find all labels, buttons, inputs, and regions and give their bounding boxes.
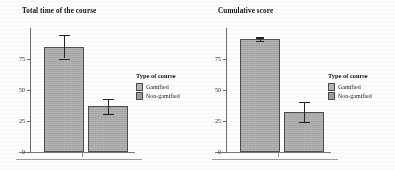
x-axis bbox=[215, 152, 331, 153]
legend-label-non-gamified: Non-gamified bbox=[338, 93, 372, 99]
error-bar-gamified-cap-bottom bbox=[59, 59, 70, 60]
y-axis bbox=[30, 28, 31, 152]
figure-container: Total time of the course 0 25 50 75 bbox=[0, 0, 395, 170]
error-bar-non-gamified-cap-bottom bbox=[103, 114, 114, 115]
chart-panel-cumulative-score: Cumulative score 0 25 50 75 bbox=[197, 0, 394, 170]
y-tick-25: 25 bbox=[223, 121, 226, 122]
error-bar-non-gamified-line bbox=[108, 99, 109, 114]
legend-swatch-icon bbox=[328, 83, 335, 91]
bar-gamified bbox=[240, 39, 280, 152]
y-tick-label-25: 25 bbox=[19, 117, 25, 125]
chart-panel-total-time: Total time of the course 0 25 50 75 bbox=[0, 0, 197, 170]
bar-gamified bbox=[44, 47, 84, 152]
legend-swatch-icon bbox=[136, 83, 143, 91]
error-bar-non-gamified-cap-bottom bbox=[299, 122, 310, 123]
panel-baseline bbox=[212, 159, 338, 160]
y-tick-label-25: 25 bbox=[215, 117, 221, 125]
x-axis bbox=[19, 152, 135, 153]
y-tick-75: 75 bbox=[223, 59, 226, 60]
y-tick-50: 50 bbox=[223, 90, 226, 91]
legend-title: Type of course bbox=[136, 72, 198, 79]
legend-swatch-icon bbox=[136, 92, 143, 100]
y-tick-75: 75 bbox=[27, 59, 30, 60]
error-bar-gamified-cap-top bbox=[59, 35, 70, 36]
plot-area-cumulative-score: 0 25 50 75 bbox=[226, 28, 331, 152]
legend-title: Type of course bbox=[328, 72, 390, 79]
plot-area-total-time: 0 25 50 75 bbox=[30, 28, 135, 152]
chart-title: Cumulative score bbox=[218, 7, 273, 15]
y-tick-0: 0 bbox=[223, 152, 226, 153]
error-bar-non-gamified-line bbox=[304, 102, 305, 122]
y-tick-25: 25 bbox=[27, 121, 30, 122]
y-tick-label-75: 75 bbox=[19, 55, 25, 63]
legend-swatch-icon bbox=[328, 92, 335, 100]
legend-item-gamified[interactable]: Gamified bbox=[136, 82, 198, 91]
x-axis-center-tick bbox=[82, 153, 83, 157]
error-bar-gamified-cap-top bbox=[256, 37, 264, 39]
error-bar-gamified-line bbox=[64, 35, 65, 59]
y-tick-0: 0 bbox=[27, 152, 30, 153]
y-tick-label-50: 50 bbox=[19, 86, 25, 94]
y-tick-label-0: 0 bbox=[218, 148, 221, 156]
error-bar-non-gamified-cap-top bbox=[103, 99, 114, 100]
legend-label-gamified: Gamified bbox=[338, 84, 361, 90]
legend-total-time: Type of course Gamified Non-gamified bbox=[136, 72, 198, 100]
panel-baseline bbox=[16, 159, 142, 160]
x-axis-center-tick bbox=[278, 153, 279, 157]
y-tick-label-75: 75 bbox=[215, 55, 221, 63]
y-tick-50: 50 bbox=[27, 90, 30, 91]
y-axis bbox=[226, 28, 227, 152]
chart-title: Total time of the course bbox=[22, 7, 96, 15]
y-tick-label-50: 50 bbox=[215, 86, 221, 94]
legend-item-non-gamified[interactable]: Non-gamified bbox=[328, 91, 390, 100]
legend-item-non-gamified[interactable]: Non-gamified bbox=[136, 91, 198, 100]
legend-item-gamified[interactable]: Gamified bbox=[328, 82, 390, 91]
error-bar-non-gamified-cap-top bbox=[299, 102, 310, 103]
error-bar-gamified-cap-bottom bbox=[256, 41, 264, 42]
legend-label-gamified: Gamified bbox=[146, 84, 169, 90]
legend-label-non-gamified: Non-gamified bbox=[146, 93, 180, 99]
y-tick-label-0: 0 bbox=[22, 148, 25, 156]
legend-cumulative-score: Type of course Gamified Non-gamified bbox=[328, 72, 390, 100]
